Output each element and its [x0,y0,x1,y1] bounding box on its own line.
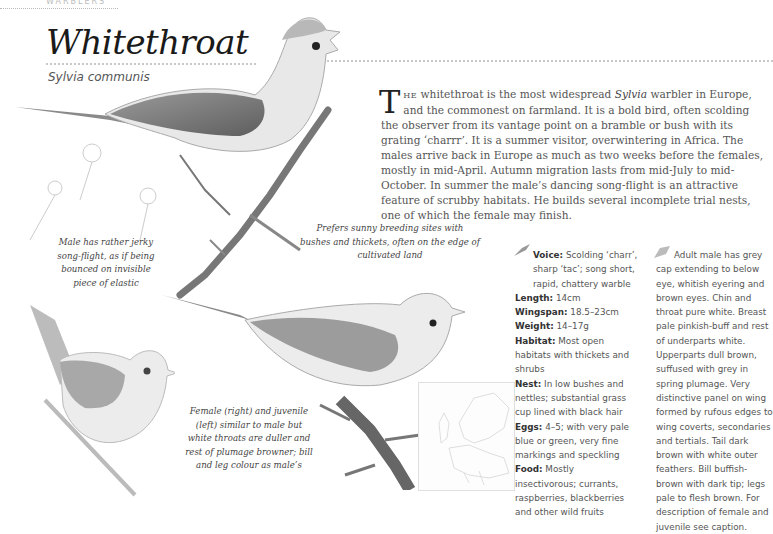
fact-voice: Voice: Scolding ‘charr’, sharp ‘tac’; so… [515,248,638,291]
fact-weight: Weight: 14–17g [515,319,638,333]
section-divider [0,8,118,9]
caption-song-flight: Male has rather jerky song-flight, as if… [52,236,160,290]
plumage-description: Adult male has grey cap extending to bel… [656,248,773,534]
caption-habitat: Prefers sunny breeding sites with bushes… [300,222,480,263]
key-facts: Voice: Scolding ‘charr’, sharp ‘tac’; so… [515,248,638,520]
fact-eggs: Eggs: 4–5; with very pale blue or green,… [515,420,638,463]
distribution-map [418,382,515,491]
fact-wingspan: Wingspan: 18.5–23cm [515,305,638,319]
drop-cap: T [379,88,400,116]
europe-map-outline [419,383,514,490]
caption-female-juvenile: Female (right) and juvenile (left) simil… [184,405,314,473]
section-label: WARBLERS [46,0,106,6]
juvenile-whitethroat-illustration [15,290,175,500]
fact-length: Length: 14cm [515,291,638,305]
intro-paragraph: THE whitethroat is the most widespread S… [381,87,764,223]
fact-nest: Nest: In low bushes and nettles; substan… [515,377,638,420]
fact-food: Food: Mostly insectivorous; currants, ra… [515,462,638,519]
title-rule-right [320,60,773,62]
fact-habitat: Habitat: Most open habitats with thicket… [515,334,638,377]
